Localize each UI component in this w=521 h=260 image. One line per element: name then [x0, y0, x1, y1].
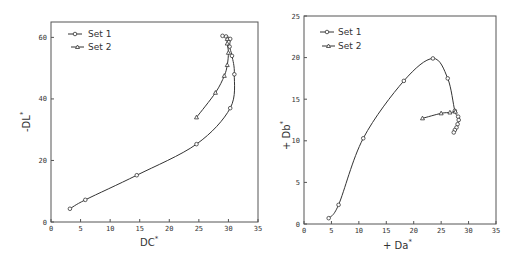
circle-marker-icon — [84, 198, 88, 202]
x-tick-label: 30 — [464, 227, 472, 235]
circle-marker-icon — [457, 118, 461, 122]
y-tick-label: 0 — [296, 221, 300, 229]
x-tick-label: 20 — [409, 227, 417, 235]
x-tick-label: 25 — [195, 225, 203, 233]
left-plot-frame — [51, 22, 258, 222]
y-tick-label: 20 — [39, 157, 47, 165]
x-tick-label: 0 — [302, 227, 306, 235]
circle-marker-icon — [221, 34, 225, 38]
legend-set2: Set 2 — [338, 41, 361, 51]
circle-marker-icon — [233, 73, 237, 77]
circle-marker-icon — [402, 79, 406, 83]
circle-marker-icon — [446, 77, 450, 81]
series-line — [70, 36, 235, 209]
left-chart: 051015202530350204060 Set 1 Set 2 DC* -D… — [19, 22, 262, 248]
y-tick-label: 10 — [292, 137, 300, 145]
x-tick-label: 35 — [254, 225, 262, 233]
x-tick-label: 0 — [49, 225, 53, 233]
left-legend: Set 1 Set 2 — [68, 29, 111, 52]
triangle-marker-icon — [226, 51, 230, 55]
x-tick-label: 30 — [224, 225, 232, 233]
legend-set1: Set 1 — [338, 27, 361, 37]
circle-marker-icon — [337, 203, 341, 207]
series-line — [329, 58, 459, 218]
y-tick-label: 60 — [39, 34, 47, 42]
triangle-marker-icon — [439, 111, 443, 115]
right-curves — [327, 57, 461, 220]
circle-marker-icon — [327, 216, 331, 220]
x-tick-label: 10 — [355, 227, 363, 235]
circle-marker-icon — [228, 106, 232, 110]
triangle-marker-icon — [420, 116, 424, 120]
right-ylabel: + Db* — [279, 120, 292, 150]
x-tick-label: 15 — [382, 227, 390, 235]
right-xlabel: + Da* — [383, 238, 412, 251]
left-ylabel: -DL* — [19, 111, 32, 132]
x-tick-label: 10 — [106, 225, 114, 233]
right-legend: Set 1 Set 2 — [320, 27, 361, 51]
y-tick-label: 40 — [39, 95, 47, 103]
triangle-marker-icon — [225, 63, 229, 67]
x-tick-label: 20 — [165, 225, 173, 233]
x-tick-label: 15 — [135, 225, 143, 233]
circle-marker-icon — [361, 137, 365, 141]
left-axis-ticks: 051015202530350204060 — [39, 34, 263, 233]
left-xlabel: DC* — [140, 235, 159, 248]
circle-marker-icon — [195, 142, 199, 146]
y-tick-label: 25 — [292, 13, 300, 21]
y-tick-label: 0 — [43, 219, 47, 227]
right-chart: 051015202530350510152025 Set 1 Set 2 + D… — [279, 13, 500, 252]
circle-marker-icon — [452, 131, 456, 135]
chart-figure: 051015202530350204060 Set 1 Set 2 DC* -D… — [0, 0, 521, 260]
triangle-marker-icon — [222, 74, 226, 78]
y-tick-label: 20 — [292, 54, 300, 62]
circle-marker-icon — [431, 57, 435, 61]
circle-marker-icon — [68, 207, 72, 211]
x-tick-label: 25 — [437, 227, 445, 235]
x-tick-label: 5 — [329, 227, 333, 235]
x-tick-label: 35 — [492, 227, 500, 235]
series-line — [196, 39, 228, 117]
legend-circle-icon — [325, 30, 329, 34]
circle-marker-icon — [135, 173, 139, 177]
triangle-marker-icon — [448, 110, 452, 114]
legend-set1: Set 1 — [88, 29, 111, 39]
right-plot-frame — [304, 16, 496, 224]
legend-triangle-icon — [327, 44, 331, 48]
legend-circle-icon — [73, 32, 77, 36]
x-tick-label: 5 — [78, 225, 82, 233]
y-tick-label: 15 — [292, 96, 300, 104]
legend-triangle-icon — [76, 45, 80, 49]
legend-set2: Set 2 — [88, 42, 111, 52]
y-tick-label: 5 — [296, 179, 300, 187]
triangle-marker-icon — [225, 41, 229, 45]
left-curves — [68, 34, 236, 211]
